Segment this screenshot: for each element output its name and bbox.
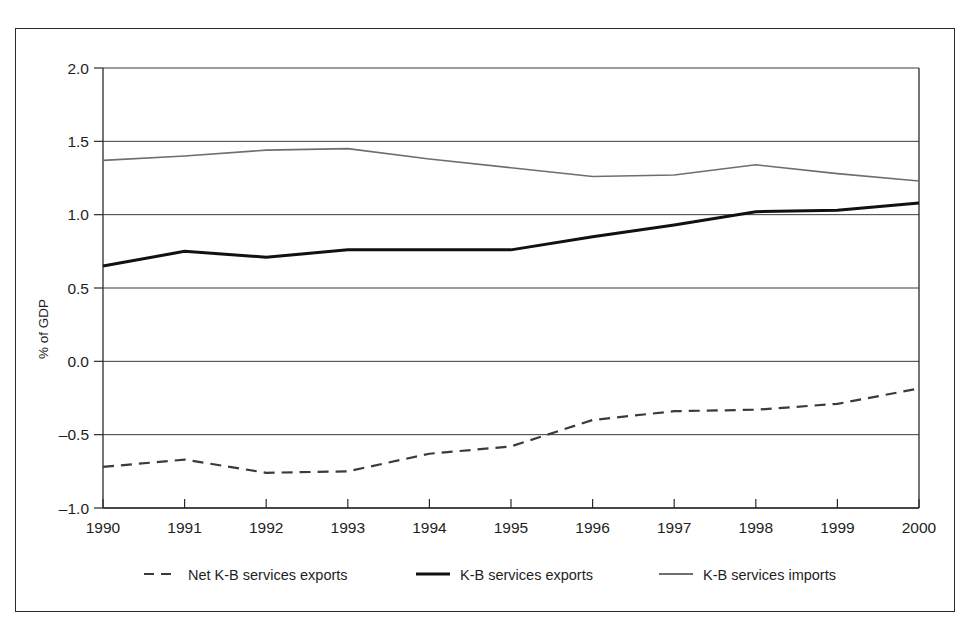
y-axis-title: % of GDP	[36, 299, 51, 359]
series-line-2	[103, 149, 919, 181]
y-tick-label: –0.5	[59, 426, 89, 443]
x-tick-label: 2000	[902, 519, 937, 536]
x-axis-tickmarks	[103, 499, 919, 508]
legend-label-0: Net K-B services exports	[188, 567, 348, 583]
line-chart: 2.01.51.00.50.0–0.5–1.0 1990199119921993…	[16, 29, 956, 613]
x-tick-label: 1990	[86, 519, 121, 536]
x-tick-label: 1997	[657, 519, 691, 536]
legend-label-2: K-B services imports	[703, 567, 836, 583]
y-tick-label: 2.0	[67, 60, 89, 77]
x-tick-label: 1992	[249, 519, 283, 536]
x-tick-label: 1995	[494, 519, 528, 536]
legend-label-1: K-B services exports	[460, 567, 593, 583]
series-line-0	[103, 388, 919, 472]
y-tick-label: –1.0	[59, 500, 90, 517]
x-tick-label: 1999	[820, 519, 854, 536]
data-series-group	[103, 149, 919, 473]
y-axis-tickmarks	[94, 68, 103, 508]
gridlines-group	[103, 68, 919, 508]
chart-plot-container: 2.01.51.00.50.0–0.5–1.0 1990199119921993…	[16, 29, 956, 613]
chart-legend: Net K-B services exportsK-B services exp…	[144, 567, 836, 583]
chart-figure-frame: 2.01.51.00.50.0–0.5–1.0 1990199119921993…	[15, 28, 955, 612]
y-tick-label: 0.0	[67, 353, 89, 370]
x-axis-tick-labels: 1990199119921993199419951996199719981999…	[86, 519, 937, 536]
y-tick-label: 1.0	[67, 206, 89, 223]
y-tick-label: 0.5	[67, 280, 89, 297]
series-line-1	[103, 203, 919, 266]
y-tick-label: 1.5	[67, 133, 89, 150]
x-tick-label: 1993	[331, 519, 365, 536]
x-tick-label: 1996	[575, 519, 609, 536]
x-tick-label: 1991	[167, 519, 201, 536]
y-axis-tick-labels: 2.01.51.00.50.0–0.5–1.0	[59, 60, 90, 517]
x-tick-label: 1994	[412, 519, 447, 536]
x-tick-label: 1998	[739, 519, 773, 536]
